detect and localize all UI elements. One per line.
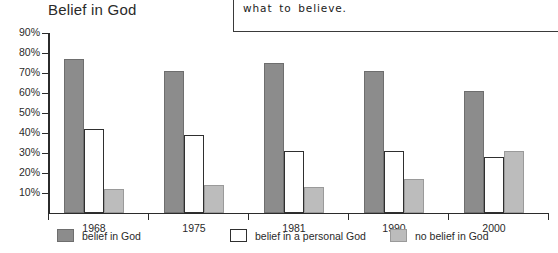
x-axis-tick [148,213,149,220]
legend-item-no-belief-in-god[interactable]: no belief in God [390,229,489,242]
bar-belief-in-a-personal-god-1990 [384,151,404,213]
bar-belief-in-a-personal-god-1968 [84,129,104,213]
callout-note-text: sure about religion and does not know wh… [234,0,558,15]
legend-swatch-icon [390,229,407,242]
chart-page: Belief in God sure about religion and do… [0,0,558,253]
bar-belief-in-a-personal-god-2000 [484,157,504,213]
legend-label: belief in a personal God [255,230,366,242]
x-axis-tick [548,213,549,220]
bar-no-belief-in-god-1968 [104,189,124,213]
bar-belief-in-god-1975 [164,71,184,213]
x-axis-tick [348,213,349,220]
bar-belief-in-god-2000 [464,91,484,213]
bar-belief-in-god-1990 [364,71,384,213]
bar-belief-in-god-1981 [264,63,284,213]
bar-no-belief-in-god-1981 [304,187,324,213]
x-axis-tick [48,213,49,220]
bar-no-belief-in-god-2000 [504,151,524,213]
callout-note-line-2: what to believe. [243,2,552,16]
x-axis-tick [248,213,249,220]
bars-layer [0,26,558,218]
plot-area: 10%20%30%40%50%60%70%80%90% 196819751981… [0,26,558,218]
page-title: Belief in God [48,1,136,18]
bar-belief-in-a-personal-god-1981 [284,151,304,213]
legend-swatch-icon [230,229,247,242]
bar-belief-in-god-1968 [64,59,84,213]
legend-item-belief-in-god[interactable]: belief in God [57,229,141,242]
legend-swatch-icon [57,229,74,242]
legend-label: no belief in God [415,230,489,242]
bar-belief-in-a-personal-god-1975 [184,135,204,213]
bar-no-belief-in-god-1975 [204,185,224,213]
legend-item-belief-in-a-personal-god[interactable]: belief in a personal God [230,229,366,242]
legend: belief in Godbelief in a personal Godno … [0,226,558,248]
x-axis-tick [448,213,449,220]
legend-label: belief in God [82,230,141,242]
bar-no-belief-in-god-1990 [404,179,424,213]
